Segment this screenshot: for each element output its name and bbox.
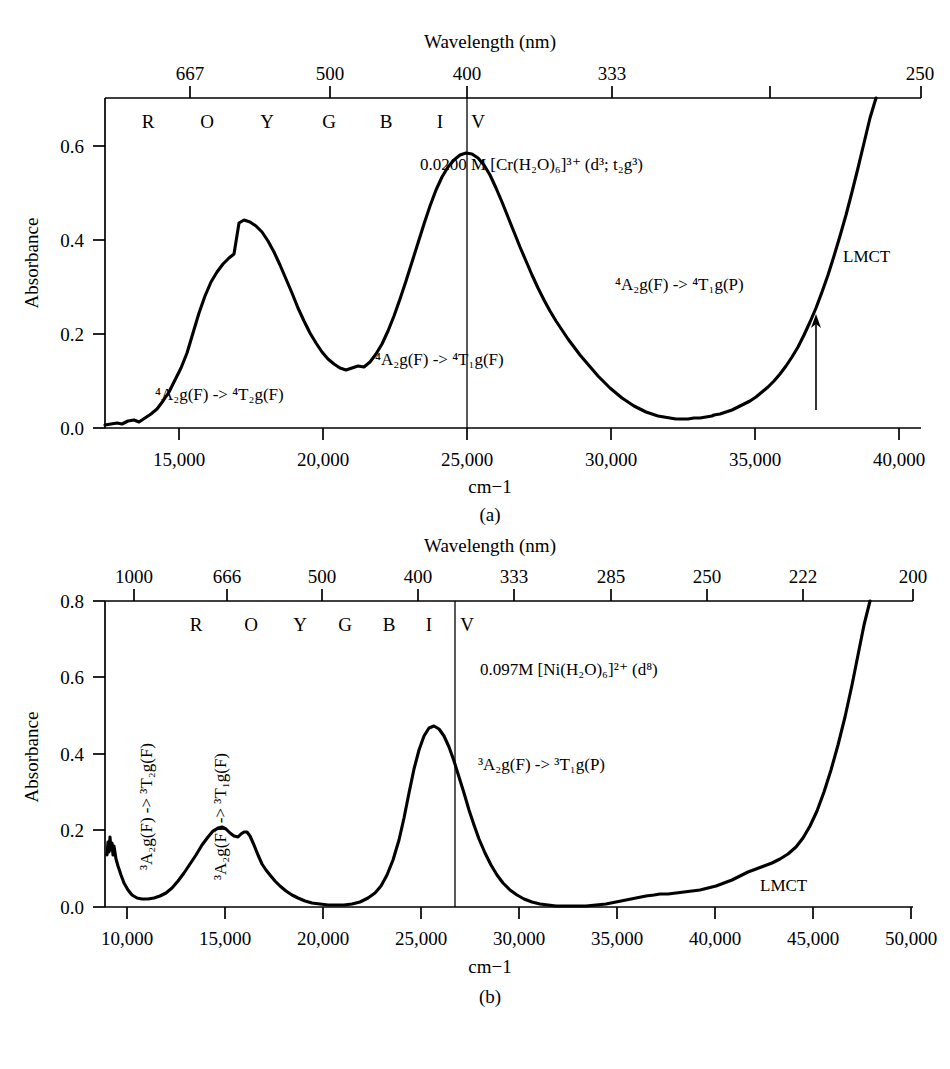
panel-a-y-tick-1: 0.2 [60, 324, 84, 345]
panel-a-transition-3-label: ⁴A₂g(F) -> ⁴T₁g(P) [615, 275, 744, 294]
panel-b-transition-1-label: ³A₂g(F) -> ³T₂g(F) [137, 743, 156, 870]
panel-b-royg-G: G [338, 614, 352, 635]
panel-a-bottom-tick-2: 25,000 [441, 449, 493, 470]
panel-b-nickel-spectrum: Wavelength (nm) 1000 666 500 400 333 285… [0, 525, 950, 1069]
panel-b-transition-3-label: ³A₂g(F) -> ³T₁g(P) [478, 755, 605, 774]
panel-b-y-tick-1: 0.2 [60, 820, 84, 841]
panel-a-sample-label: 0.0200 M [Cr(H₂O)₆]³⁺ (d³; t₂g³) [420, 155, 643, 174]
panel-a-lmct-arrow-icon [811, 314, 821, 410]
panel-b-bottom-tick-1: 15,000 [199, 928, 251, 949]
panel-b-royg-R: R [190, 614, 203, 635]
panel-b-royg-O: O [244, 614, 258, 635]
panel-a-chromium-spectrum: Wavelength (nm) 667 500 400 333 250 [0, 0, 950, 530]
panel-b-top-tick-0: 1000 [115, 566, 153, 587]
panel-b-top-tick-4: 333 [500, 566, 529, 587]
panel-a-y-tickmarks [93, 146, 105, 428]
panel-a-y-tick-3: 0.6 [60, 136, 84, 157]
panel-b-y-tick-3: 0.6 [60, 667, 84, 688]
panel-b-y-tickmarks [93, 601, 105, 907]
panel-b-y-tick-0: 0.0 [60, 897, 84, 918]
panel-a-lmct-label: LMCT [843, 247, 891, 266]
panel-a-royg-I: I [437, 111, 443, 132]
panel-b-royg-V: V [460, 614, 474, 635]
panel-b-top-tick-5: 285 [597, 566, 626, 587]
panel-b-bottom-tick-4: 30,000 [493, 928, 545, 949]
panel-a-royg-Y: Y [260, 111, 274, 132]
panel-b-bottom-tick-5: 35,000 [591, 928, 643, 949]
panel-b-top-tick-3: 400 [404, 566, 433, 587]
panel-b-caption: (b) [479, 986, 501, 1008]
panel-a-caption: (a) [479, 504, 500, 526]
panel-a-bottom-tick-5: 40,000 [873, 449, 925, 470]
figure-page: Wavelength (nm) 667 500 400 333 250 [0, 0, 950, 1069]
panel-a-y-tick-2: 0.4 [60, 230, 84, 251]
panel-a-royg-G: G [322, 111, 336, 132]
panel-a-top-tickmarks [190, 86, 921, 98]
panel-a-top-tick-0: 667 [176, 63, 205, 84]
panel-a-top-axis-title: Wavelength (nm) [424, 31, 556, 53]
panel-a-svg: Wavelength (nm) 667 500 400 333 250 [0, 0, 950, 530]
panel-b-bottom-tickmarks [127, 907, 911, 919]
panel-b-bottom-axis-title: cm−1 [468, 956, 511, 977]
panel-a-bottom-tick-0: 15,000 [153, 449, 205, 470]
panel-b-y-tick-2: 0.4 [60, 744, 84, 765]
panel-b-top-tickmarks [134, 589, 913, 601]
panel-b-top-tick-2: 500 [308, 566, 337, 587]
panel-a-axes [105, 98, 921, 428]
panel-b-transition-2-label: ³A₂g(F) -> ³T₁g(F) [211, 753, 230, 880]
panel-a-royg-O: O [200, 111, 214, 132]
panel-a-top-tick-3: 333 [598, 63, 627, 84]
panel-b-royg-B: B [383, 614, 396, 635]
panel-b-sample-label: 0.097M [Ni(H₂O)₆]²⁺ (d⁸) [480, 660, 658, 679]
panel-b-top-axis-title: Wavelength (nm) [424, 535, 556, 557]
panel-b-royg-Y: Y [293, 614, 307, 635]
panel-a-y-axis-title: Absorbance [21, 218, 42, 309]
panel-a-top-tick-2: 400 [453, 63, 482, 84]
panel-b-royg-I: I [426, 614, 432, 635]
panel-b-top-tick-7: 222 [789, 566, 818, 587]
panel-a-spectrum-curve [105, 98, 876, 425]
panel-a-y-tick-0: 0.0 [60, 418, 84, 439]
panel-b-bottom-tick-0: 10,000 [101, 928, 153, 949]
panel-a-royg-R: R [142, 111, 155, 132]
panel-b-lmct-label: LMCT [760, 876, 808, 895]
panel-b-bottom-tick-2: 20,000 [297, 928, 349, 949]
panel-b-top-tick-1: 666 [213, 566, 242, 587]
panel-b-top-tick-6: 250 [693, 566, 722, 587]
panel-a-royg-V: V [471, 111, 485, 132]
panel-a-bottom-tick-1: 20,000 [297, 449, 349, 470]
panel-a-royg-B: B [380, 111, 393, 132]
panel-a-top-tick-4: 250 [906, 63, 935, 84]
panel-a-top-tick-1: 500 [316, 63, 345, 84]
panel-a-bottom-tick-4: 35,000 [729, 449, 781, 470]
panel-a-transition-1-label: ⁴A₂g(F) -> ⁴T₂g(F) [155, 385, 284, 404]
panel-a-bottom-axis-title: cm−1 [468, 476, 511, 497]
panel-a-bottom-tick-3: 30,000 [585, 449, 637, 470]
panel-b-bottom-tick-3: 25,000 [395, 928, 447, 949]
panel-b-svg: Wavelength (nm) 1000 666 500 400 333 285… [0, 525, 950, 1069]
panel-a-transition-2-label: ⁴A₂g(F) -> ⁴T₁g(F) [375, 350, 504, 369]
panel-b-top-tick-8: 200 [899, 566, 928, 587]
panel-b-y-tick-4: 0.8 [60, 591, 84, 612]
panel-a-bottom-tickmarks [179, 428, 899, 440]
panel-b-bottom-tick-6: 40,000 [689, 928, 741, 949]
panel-b-bottom-tick-8: 50,000 [885, 928, 937, 949]
panel-b-y-axis-title: Absorbance [21, 712, 42, 803]
panel-b-bottom-tick-7: 45,000 [787, 928, 839, 949]
